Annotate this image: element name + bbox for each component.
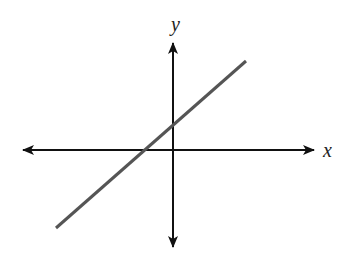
- plotted-line: [56, 61, 246, 228]
- x-axis-label: x: [322, 139, 332, 161]
- coordinate-plane-diagram: y x: [0, 0, 339, 260]
- y-axis-label: y: [169, 13, 180, 36]
